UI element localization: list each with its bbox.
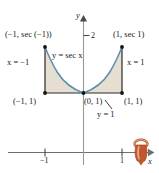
label-left-boundary: x = −1 bbox=[7, 58, 29, 67]
label-curve-equation: y = sec x bbox=[52, 51, 83, 60]
y-axis-arrowhead bbox=[80, 15, 87, 22]
label-bottom-mid-point: (0, 1) bbox=[84, 97, 102, 106]
point-marker-bottom-right bbox=[120, 91, 124, 95]
x-tick-label-pos1: 1 bbox=[120, 156, 124, 165]
y-axis-label: y bbox=[76, 10, 80, 20]
label-top-right-point: (1, sec 1) bbox=[113, 30, 144, 39]
x-tick-label-neg1: −1 bbox=[40, 156, 49, 165]
label-top-left-point: (−1, sec (−1)) bbox=[5, 30, 52, 39]
math-figure: (−1, sec (−1)) (1, sec 1) x = −1 x = 1 y… bbox=[0, 0, 159, 173]
label-bottom-line-equation: y = 1 bbox=[97, 110, 115, 119]
y-tick-label-2: 2 bbox=[91, 31, 95, 40]
leader-line-y-eq-1 bbox=[105, 100, 112, 109]
label-right-boundary: x = 1 bbox=[127, 58, 145, 67]
point-marker-bottom-mid bbox=[82, 91, 86, 95]
point-marker-top-left bbox=[43, 45, 47, 49]
point-marker-top-right bbox=[120, 45, 124, 49]
point-marker-bottom-left bbox=[43, 91, 47, 95]
label-bottom-left-point: (−1, 1) bbox=[13, 97, 36, 106]
label-bottom-right-point: (1, 1) bbox=[124, 97, 142, 106]
x-axis-label: x bbox=[148, 156, 152, 166]
